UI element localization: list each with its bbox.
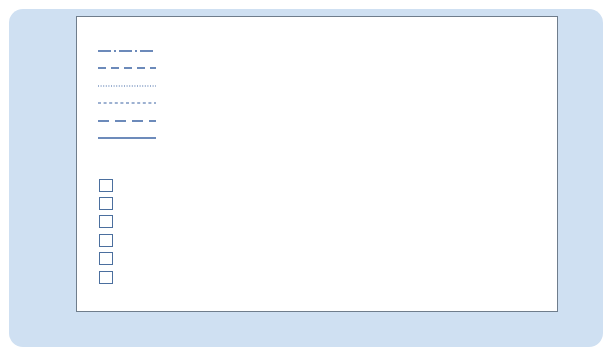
legend-item-rest-of-world-per-capita[interactable]	[98, 130, 165, 148]
legend-item-annex1-non-oecd[interactable]	[99, 231, 123, 249]
legend-line-sample-india	[98, 115, 156, 127]
legend-item-india-per-capita[interactable]	[98, 112, 165, 130]
legend-per-capita	[98, 42, 165, 147]
legend-swatch-rest-of-world	[99, 179, 113, 192]
legend-item-china-per-capita[interactable]	[98, 95, 165, 113]
legend-item-usa-per-capita[interactable]	[98, 42, 165, 60]
legend-item-annex1-per-capita[interactable]	[98, 77, 165, 95]
legend-line-sample-row	[98, 132, 156, 144]
legend-swatch-china	[99, 215, 113, 228]
legend-item-india[interactable]	[99, 194, 123, 212]
legend-item-china[interactable]	[99, 213, 123, 231]
legend-item-united-states[interactable]	[99, 268, 123, 286]
legend-line-sample-oecd	[98, 62, 156, 74]
legend-line-sample-annex1	[98, 80, 156, 92]
legend-line-sample-china	[98, 97, 156, 109]
legend-gross-emissions	[99, 176, 123, 286]
legend-swatch-india	[99, 197, 113, 210]
figure	[0, 0, 612, 356]
legend-item-oecd-minus-usa[interactable]	[99, 250, 123, 268]
legend-line-sample-usa	[98, 45, 156, 57]
legend-swatch-annex1-non-oecd	[99, 234, 113, 247]
legend-item-oecd-minus-usa-per-capita[interactable]	[98, 60, 165, 78]
legend-swatch-oecd-minus-usa	[99, 252, 113, 265]
legend-swatch-united-states	[99, 271, 113, 284]
legend-item-rest-of-world[interactable]	[99, 176, 123, 194]
